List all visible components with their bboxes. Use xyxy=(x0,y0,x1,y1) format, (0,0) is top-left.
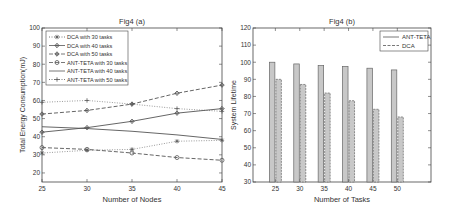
y-tick-label: 100 xyxy=(29,24,40,31)
x-tick-label: 50 xyxy=(394,185,402,192)
y-axis-label: Total Energy Consumption(mJ) xyxy=(19,57,27,153)
plus-marker xyxy=(85,98,89,102)
y-tick-label: 50 xyxy=(33,115,41,122)
y-tick-label: 30 xyxy=(244,178,252,185)
y-tick-label: 40 xyxy=(33,133,41,140)
y-tick-label: 70 xyxy=(33,79,41,86)
bar-ant-teta xyxy=(294,64,300,182)
legend-entry: DCA xyxy=(402,43,415,49)
bar-dca xyxy=(373,109,379,182)
legend-entry: DCA with 40 tasks xyxy=(67,43,113,49)
legend-entry: DCA with 30 tasks xyxy=(67,34,113,40)
bar-dca xyxy=(300,84,306,182)
y-tick-label: 50 xyxy=(244,144,252,151)
x-tick-label: 40 xyxy=(345,185,353,192)
bar-ant-teta xyxy=(391,70,397,182)
plus-marker xyxy=(175,106,179,110)
y-tick-label: 90 xyxy=(33,42,41,49)
bar-ant-teta xyxy=(318,66,324,182)
star-marker xyxy=(55,35,59,39)
x-axis-label: Number of Nodes xyxy=(103,195,162,204)
y-tick-label: 60 xyxy=(33,97,41,104)
x-tick-label: 45 xyxy=(218,185,226,192)
x-tick-label: 30 xyxy=(296,185,304,192)
legend: DCA with 30 tasksDCA with 40 tasksDCA wi… xyxy=(46,31,128,85)
y-tick-label: 80 xyxy=(244,93,252,100)
y-tick-label: 40 xyxy=(244,161,252,168)
x-tick-label: 40 xyxy=(173,185,181,192)
legend-entry: ANT-TETA with 50 tasks xyxy=(67,77,127,83)
y-tick-label: 110 xyxy=(241,41,252,48)
y-tick-label: 30 xyxy=(33,151,41,158)
chart-title: Fig4 (b) xyxy=(329,17,355,26)
star-marker xyxy=(175,139,179,143)
chart-fig4a: 25303540452030405060708090100Fig4 (a)Num… xyxy=(19,17,226,204)
figure: 25303540452030405060708090100Fig4 (a)Num… xyxy=(0,0,457,211)
x-tick-label: 25 xyxy=(38,185,46,192)
y-tick-label: 70 xyxy=(244,110,252,117)
y-axis-label: System Lifetime xyxy=(230,80,238,130)
y-tick-label: 60 xyxy=(244,127,252,134)
x-tick-label: 35 xyxy=(321,185,329,192)
bar-dca xyxy=(325,93,331,182)
series-line xyxy=(40,106,224,134)
x-axis-label: Number of Tasks xyxy=(314,195,370,204)
x-tick-label: 30 xyxy=(83,185,91,192)
bar-dca xyxy=(349,101,355,182)
bar-ant-teta xyxy=(269,62,275,182)
series-line xyxy=(42,127,222,140)
x-tick-label: 45 xyxy=(369,185,377,192)
x-tick-label: 35 xyxy=(128,185,136,192)
legend-entry: ANT-TETA with 30 tasks xyxy=(67,60,127,66)
y-tick-label: 20 xyxy=(33,169,41,176)
legend-entry: DCA with 50 tasks xyxy=(67,51,113,57)
legend: ANT-TETADCA xyxy=(380,31,431,51)
x-tick-label: 25 xyxy=(272,185,280,192)
legend-entry: ANT-TETA xyxy=(402,34,431,40)
star-marker xyxy=(220,138,224,142)
bar-dca xyxy=(276,79,282,182)
y-tick-label: 80 xyxy=(33,61,41,68)
bar-dca xyxy=(398,117,404,182)
y-tick-label: 90 xyxy=(244,76,252,83)
star-marker xyxy=(40,151,44,155)
chart-fig4b: 25303540455030405060708090100110120Fig4 … xyxy=(230,17,431,204)
legend-entry: ANT-TETA with 40 tasks xyxy=(67,68,127,74)
plus-marker xyxy=(130,102,134,106)
y-tick-label: 100 xyxy=(240,59,251,66)
bar-ant-teta xyxy=(367,68,373,182)
chart-title: Fig4 (a) xyxy=(119,17,145,26)
y-tick-label: 120 xyxy=(240,24,251,31)
bar-ant-teta xyxy=(343,67,349,183)
